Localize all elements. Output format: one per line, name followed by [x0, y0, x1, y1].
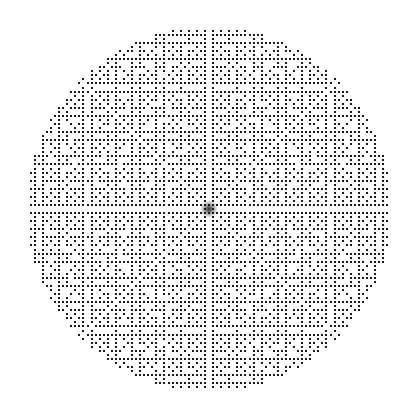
coprime-lattice-scatter-plot [0, 0, 414, 417]
figure-root [0, 0, 414, 417]
